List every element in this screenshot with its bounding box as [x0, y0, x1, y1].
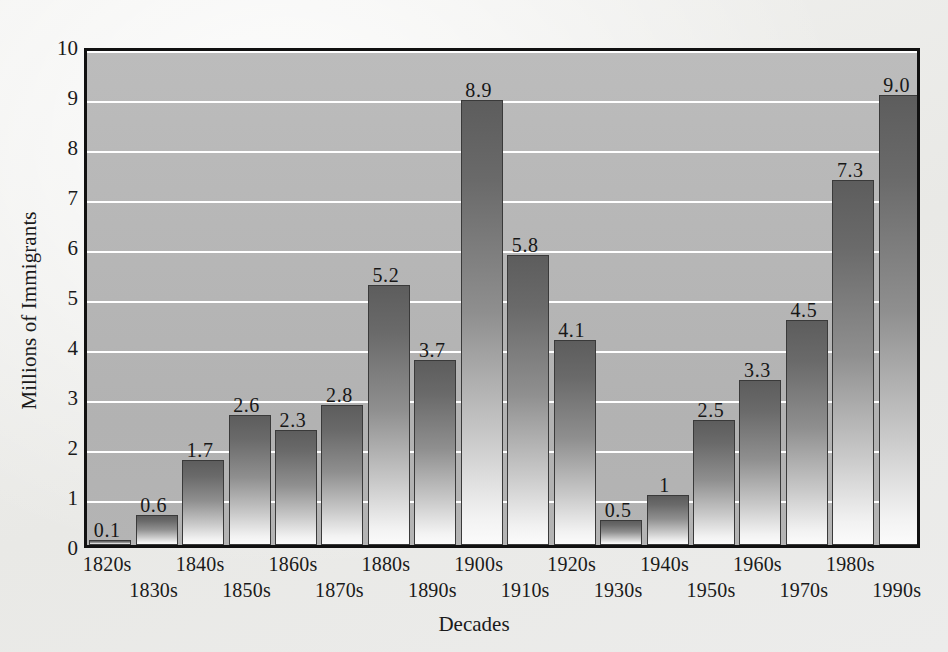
x-axis-tick-label: 1920s [547, 554, 596, 574]
x-axis-tick-label: 1860s [269, 554, 318, 574]
bar[interactable] [275, 430, 317, 545]
x-axis-tick-label: 1820s [83, 554, 132, 574]
y-axis-tick-label: 9 [36, 88, 78, 109]
y-axis-tick-label: 7 [36, 188, 78, 209]
bar[interactable] [89, 540, 131, 545]
bar[interactable] [414, 360, 456, 545]
bar[interactable] [879, 95, 920, 545]
y-axis-tick-label: 10 [36, 38, 78, 59]
bar[interactable] [739, 380, 781, 545]
x-axis-tick-label: 1890s [408, 580, 457, 600]
bar[interactable] [600, 520, 642, 545]
bar[interactable] [136, 515, 178, 545]
bar[interactable] [647, 495, 689, 545]
bar[interactable] [507, 255, 549, 545]
x-axis-tick-label: 1940s [640, 554, 689, 574]
x-axis-tick-label: 1900s [454, 554, 503, 574]
bar[interactable] [461, 100, 503, 545]
bar[interactable] [693, 420, 735, 545]
x-axis-tick-label: 1960s [733, 554, 782, 574]
x-axis-title: Decades [0, 612, 948, 637]
y-axis-tick-label: 5 [36, 288, 78, 309]
x-axis-tick-labels: 1820s1830s1840s1850s1860s1870s1880s1890s… [84, 550, 920, 610]
bar[interactable] [182, 460, 224, 545]
bar[interactable] [321, 405, 363, 545]
x-axis-tick-label: 1970s [779, 580, 828, 600]
y-axis-tick-label: 1 [36, 488, 78, 509]
plot-area [84, 48, 920, 548]
y-axis-tick-label: 4 [36, 338, 78, 359]
y-axis-tick-label: 6 [36, 238, 78, 259]
y-axis-tick-label: 0 [36, 538, 78, 559]
x-axis-tick-label: 1840s [176, 554, 225, 574]
x-axis-tick-label: 1830s [129, 580, 178, 600]
y-axis-tick-label: 2 [36, 438, 78, 459]
y-axis-tick-label: 8 [36, 138, 78, 159]
bar[interactable] [368, 285, 410, 545]
bars-layer [87, 51, 917, 545]
chart-page: Millions of Immigrants 012345678910 0.10… [0, 0, 948, 652]
x-axis-tick-label: 1910s [501, 580, 550, 600]
x-axis-tick-label: 1950s [687, 580, 736, 600]
x-axis-tick-label: 1930s [594, 580, 643, 600]
bar[interactable] [786, 320, 828, 545]
y-axis-tick-labels: 012345678910 [36, 48, 78, 548]
bar[interactable] [229, 415, 271, 545]
x-axis-tick-label: 1990s [872, 580, 921, 600]
x-axis-tick-label: 1850s [222, 580, 271, 600]
y-axis-tick-label: 3 [36, 388, 78, 409]
x-axis-tick-label: 1980s [826, 554, 875, 574]
x-axis-tick-label: 1880s [361, 554, 410, 574]
bar[interactable] [554, 340, 596, 545]
x-axis-tick-label: 1870s [315, 580, 364, 600]
bar[interactable] [832, 180, 874, 545]
